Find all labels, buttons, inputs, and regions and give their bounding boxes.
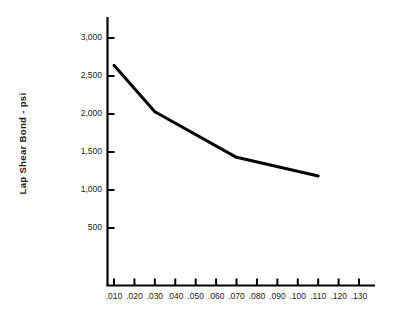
y-axis-tick-label: 500: [52, 222, 102, 232]
data-series-line: [114, 65, 318, 176]
y-axis-tick-label: 2,500: [52, 70, 102, 80]
x-axis-ticks: [114, 279, 359, 286]
chart-container: Lap Shear Bond - psi 5001,0001,5002,0002…: [0, 0, 399, 320]
x-axis-tick-label: .130: [345, 291, 373, 301]
y-axis-tick-label: 3,000: [52, 32, 102, 42]
chart-plot-area: [0, 0, 399, 320]
y-axis-tick-label: 1,500: [52, 146, 102, 156]
y-axis-tick-label: 2,000: [52, 108, 102, 118]
y-axis-tick-label: 1,000: [52, 184, 102, 194]
